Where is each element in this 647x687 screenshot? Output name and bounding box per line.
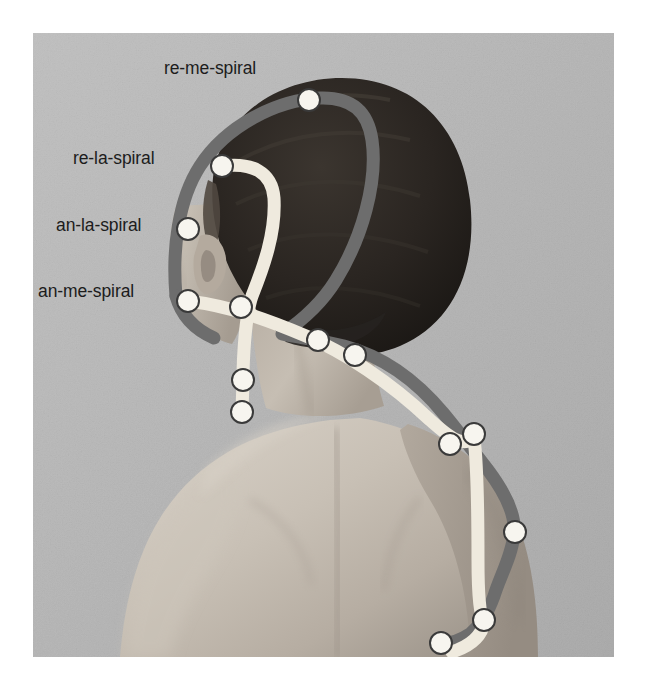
dot-jaw-upper[interactable] [230, 296, 252, 318]
spine-shadow [335, 428, 339, 657]
dot-shoulder-in[interactable] [439, 433, 461, 455]
dot-neck-right[interactable] [344, 344, 366, 366]
dot-re-me-spiral[interactable] [298, 89, 320, 111]
annotated-photograph [0, 0, 647, 687]
dot-re-la-spiral[interactable] [211, 155, 233, 177]
dot-an-me-spiral[interactable] [177, 290, 199, 312]
label-re-la-spiral: re-la-spiral [73, 150, 154, 168]
dot-upper-arm[interactable] [504, 521, 526, 543]
dot-an-la-spiral[interactable] [177, 218, 199, 240]
dot-jaw-lower[interactable] [232, 369, 254, 391]
figure-canvas: re-me-spiral re-la-spiral an-la-spiral a… [0, 0, 647, 687]
dot-arm-bottom[interactable] [430, 632, 452, 654]
label-re-me-spiral: re-me-spiral [164, 60, 256, 78]
label-an-me-spiral: an-me-spiral [38, 283, 134, 301]
dot-clavicle[interactable] [231, 401, 253, 423]
dot-neck-left[interactable] [307, 329, 329, 351]
dot-arm-lower[interactable] [473, 609, 495, 631]
dot-shoulder-out[interactable] [463, 423, 485, 445]
label-an-la-spiral: an-la-spiral [56, 217, 141, 235]
